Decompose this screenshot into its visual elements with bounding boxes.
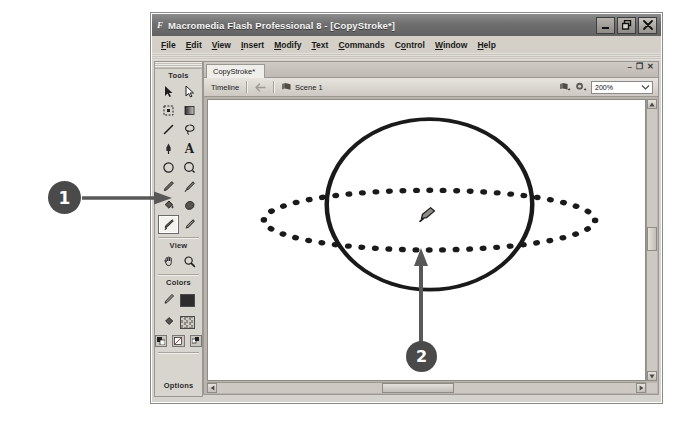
ellipse-shape bbox=[264, 190, 595, 250]
close-button[interactable] bbox=[638, 17, 657, 34]
title-bar[interactable]: F Macromedia Flash Professional 8 - [Cop… bbox=[152, 14, 661, 36]
brush-tool[interactable] bbox=[179, 177, 200, 196]
callout-1-number: 1 bbox=[59, 188, 71, 208]
tools-panel: Tools bbox=[154, 61, 203, 397]
scrollbar-corner bbox=[647, 383, 657, 393]
colors-options-divider bbox=[158, 352, 199, 354]
fill-bucket-icon bbox=[163, 313, 175, 331]
document-restore-button[interactable]: ❐ bbox=[636, 63, 643, 71]
vertical-scrollbar-thumb[interactable] bbox=[647, 227, 657, 251]
menu-item-text[interactable]: Text bbox=[307, 39, 334, 51]
menu-item-edit[interactable]: Edit bbox=[181, 39, 207, 51]
minimize-button[interactable] bbox=[596, 17, 615, 34]
scene-group[interactable]: Scene 1 bbox=[275, 78, 323, 96]
tools-section-title: Tools bbox=[155, 69, 202, 82]
pen-tool[interactable] bbox=[158, 139, 179, 158]
callout-2-number: 2 bbox=[416, 347, 427, 366]
menu-item-window[interactable]: Window bbox=[430, 39, 473, 51]
menu-item-file[interactable]: File bbox=[156, 39, 181, 51]
flash-app-icon: F bbox=[157, 20, 163, 30]
tools-panel-grip[interactable] bbox=[155, 62, 202, 69]
application-window: F Macromedia Flash Professional 8 - [Cop… bbox=[150, 12, 663, 404]
timeline-bar: Timeline Scene 1 bbox=[204, 78, 658, 97]
zoom-level-select[interactable]: 200% bbox=[591, 81, 653, 94]
zoom-tool[interactable] bbox=[179, 252, 200, 271]
gradient-transform-tool[interactable] bbox=[179, 101, 200, 120]
paint-bucket-tool[interactable] bbox=[158, 196, 179, 215]
document-tab-copystroke[interactable]: CopyStroke* bbox=[206, 64, 265, 78]
document-window-controls: – ❐ ✕ bbox=[628, 63, 654, 71]
toolbar-grip bbox=[152, 53, 661, 60]
scroll-up-button[interactable] bbox=[647, 99, 657, 109]
fill-transform-tool[interactable] bbox=[179, 196, 200, 215]
circle-shape bbox=[327, 119, 533, 290]
callout-1: 1 bbox=[48, 181, 81, 214]
fill-color-swatch[interactable] bbox=[180, 316, 195, 329]
stroke-color-swatch[interactable] bbox=[180, 294, 195, 307]
window-controls bbox=[596, 17, 657, 34]
scroll-left-button[interactable] bbox=[207, 383, 217, 393]
tools-grid: A bbox=[155, 82, 202, 234]
black-and-white-button[interactable] bbox=[155, 335, 167, 347]
view-section-title: View bbox=[155, 239, 202, 252]
horizontal-scrollbar[interactable] bbox=[207, 382, 646, 393]
swap-colors-button[interactable] bbox=[190, 335, 202, 347]
menu-item-commands[interactable]: Commands bbox=[333, 39, 389, 51]
lasso-tool[interactable] bbox=[179, 120, 200, 139]
menu-item-insert[interactable]: Insert bbox=[236, 39, 269, 51]
line-tool[interactable] bbox=[158, 120, 179, 139]
scroll-right-button[interactable] bbox=[636, 383, 646, 393]
stroke-pencil-icon bbox=[163, 291, 175, 309]
no-color-button[interactable] bbox=[172, 335, 184, 347]
hand-tool[interactable] bbox=[158, 252, 179, 271]
stroke-color-row bbox=[155, 289, 202, 311]
chevron-down-icon[interactable] bbox=[641, 84, 650, 91]
rectangle-tool[interactable] bbox=[179, 158, 200, 177]
pencil-tool[interactable] bbox=[158, 177, 179, 196]
view-tools-grid bbox=[155, 252, 202, 271]
scene-label: Scene 1 bbox=[295, 83, 323, 92]
scroll-down-button[interactable] bbox=[647, 371, 657, 381]
oval-tool[interactable] bbox=[158, 158, 179, 177]
scene-icon bbox=[281, 78, 292, 96]
edit-symbols-icon[interactable] bbox=[575, 78, 587, 96]
menu-item-help[interactable]: Help bbox=[472, 39, 500, 51]
menu-bar: File Edit View Insert Modify Text Comman… bbox=[152, 36, 661, 54]
menu-item-view[interactable]: View bbox=[207, 39, 236, 51]
svg-text:A: A bbox=[183, 142, 194, 155]
colors-section-title: Colors bbox=[155, 276, 202, 289]
callout-2: 2 bbox=[406, 341, 437, 372]
selection-tool[interactable] bbox=[158, 82, 179, 101]
ink-bottle-tool[interactable] bbox=[158, 215, 179, 234]
document-tab-row: CopyStroke* – ❐ ✕ bbox=[204, 62, 658, 78]
window-title: Macromedia Flash Professional 8 - [CopyS… bbox=[168, 20, 395, 31]
document-close-button[interactable]: ✕ bbox=[647, 63, 654, 71]
timeline-label[interactable]: Timeline bbox=[204, 83, 246, 92]
options-section-title: Options bbox=[155, 379, 202, 392]
eyedropper-tool[interactable] bbox=[179, 215, 200, 234]
document-minimize-button[interactable]: – bbox=[628, 63, 632, 71]
zoom-level-value: 200% bbox=[595, 84, 613, 91]
fill-color-row bbox=[155, 311, 202, 333]
free-transform-tool[interactable] bbox=[158, 101, 179, 120]
menu-item-control[interactable]: Control bbox=[390, 39, 430, 51]
menu-item-modify[interactable]: Modify bbox=[269, 39, 306, 51]
horizontal-scrollbar-thumb[interactable] bbox=[382, 383, 454, 393]
stage-artwork bbox=[208, 100, 645, 380]
stage-canvas[interactable] bbox=[207, 99, 646, 381]
edit-scene-icon[interactable] bbox=[559, 78, 571, 96]
back-arrow-icon[interactable] bbox=[248, 83, 273, 92]
subselection-tool[interactable] bbox=[179, 82, 200, 101]
timeline-right-controls: 200% bbox=[559, 78, 658, 96]
color-buttons-row bbox=[155, 333, 202, 349]
text-tool[interactable]: A bbox=[179, 139, 200, 158]
restore-button[interactable] bbox=[617, 17, 636, 34]
vertical-scrollbar[interactable] bbox=[646, 99, 657, 381]
